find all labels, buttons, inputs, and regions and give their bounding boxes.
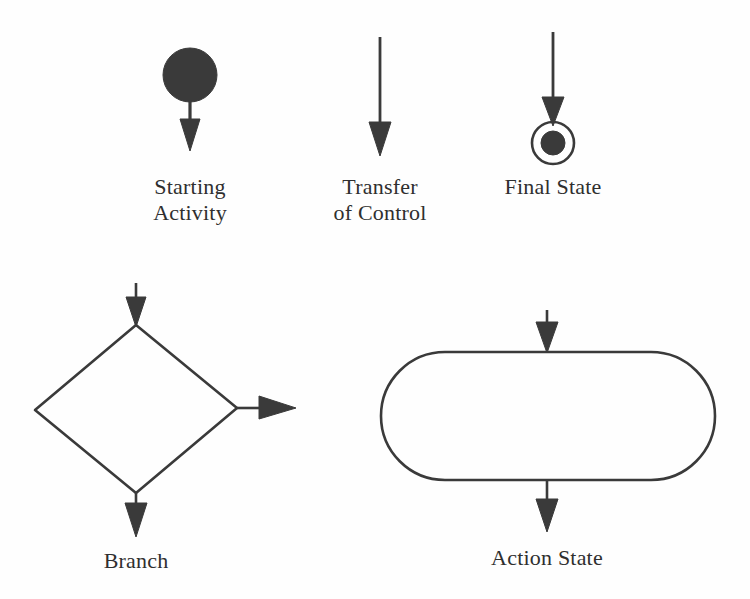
branch-symbol [35,283,296,537]
branch-bottom-arrowhead-icon [125,503,147,537]
transfer-arrowhead-icon [369,122,391,156]
transfer-of-control-label-line-2: of Control [300,200,460,226]
transfer-of-control-symbol [369,37,391,156]
starting-activity-label-line-2: Activity [110,200,270,226]
action-state-stadium-icon [381,352,715,480]
transfer-of-control-label-line-1: Transfer [300,174,460,200]
branch-right-arrowhead-icon [259,396,296,419]
transfer-of-control-label: Transfer of Control [300,174,460,226]
branch-label-line-1: Branch [56,548,216,574]
starting-activity-label-line-1: Starting [110,174,270,200]
final-state-label: Final State [478,174,628,200]
uml-notation-figure [0,0,750,599]
branch-diamond-icon [35,325,237,493]
action-state-incoming-arrowhead-icon [536,322,558,353]
action-state-outgoing-arrowhead-icon [536,499,558,532]
final-state-symbol [532,32,574,164]
branch-label: Branch [56,548,216,574]
action-state-symbol [381,310,715,532]
action-state-label: Action State [452,545,642,571]
start-activity-arrowhead-icon [180,119,200,151]
starting-activity-label: Starting Activity [110,174,270,226]
diagram-canvas: Starting Activity Transfer of Control Fi… [0,0,750,599]
action-state-label-line-1: Action State [452,545,642,571]
final-state-label-line-1: Final State [478,174,628,200]
start-node-filled-circle-icon [163,48,217,102]
branch-incoming-arrowhead-icon [126,297,146,327]
final-state-inner-filled-circle-icon [541,131,565,155]
starting-activity-symbol [163,48,217,151]
